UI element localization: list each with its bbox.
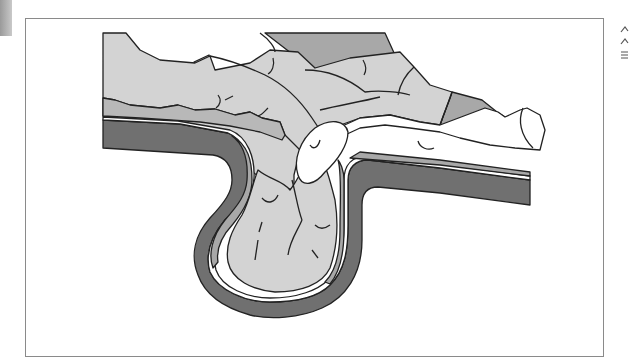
page-edge-marks xyxy=(618,24,632,64)
anatomical-illustration xyxy=(0,0,635,364)
